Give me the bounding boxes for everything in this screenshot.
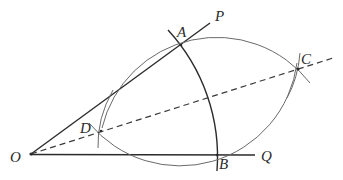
point-B: [216, 154, 219, 157]
bisector-OC: [31, 58, 333, 154]
label-Q: Q: [261, 149, 272, 164]
label-P: P: [215, 9, 224, 24]
point-A: [180, 44, 183, 47]
arc-AB: [168, 30, 218, 171]
label-B: B: [219, 157, 228, 172]
angle-bisector-diagram: O A B C D P Q: [0, 0, 343, 180]
point-D: [100, 130, 103, 133]
point-C: [296, 67, 299, 70]
label-O: O: [10, 150, 21, 165]
diagram-canvas: [0, 0, 343, 180]
label-C: C: [301, 52, 311, 67]
label-D: D: [80, 121, 91, 136]
tick-arc-C: [287, 53, 300, 98]
label-A: A: [177, 25, 186, 40]
point-O: [29, 152, 32, 155]
upper-lens-arc: [102, 37, 310, 128]
ray-OQ: [31, 155, 255, 156]
